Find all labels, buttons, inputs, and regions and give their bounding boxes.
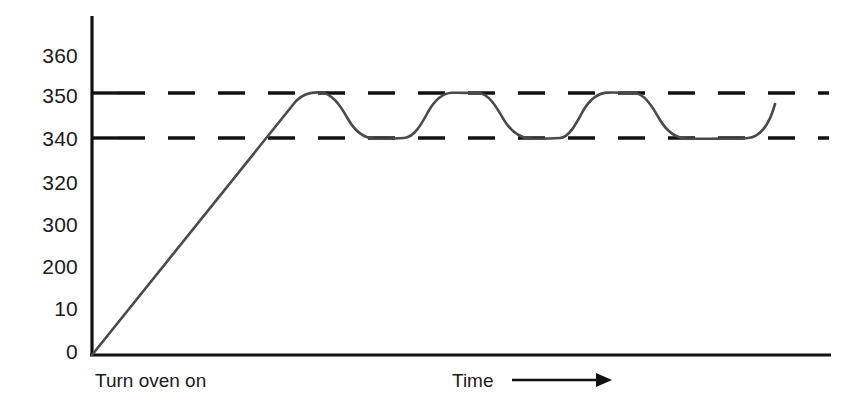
temperature-vs-time-chart: 360 350 340 320 300 200 10 0 Turn oven o… [0,0,855,418]
y-tick-label-340: 340 [12,128,78,149]
y-tick-label-10: 10 [12,298,78,319]
time-arrow-head [596,373,612,387]
y-tick-label-0: 0 [12,341,78,362]
time-axis-label: Time [452,371,494,390]
chart-canvas [0,0,855,418]
y-tick-label-360: 360 [12,45,78,66]
y-tick-label-350: 350 [12,85,78,106]
y-tick-label-200: 200 [12,256,78,277]
oven-temperature-curve [92,92,775,355]
y-tick-label-320: 320 [12,172,78,193]
turn-oven-on-label: Turn oven on [95,371,206,390]
y-tick-label-300: 300 [12,214,78,235]
